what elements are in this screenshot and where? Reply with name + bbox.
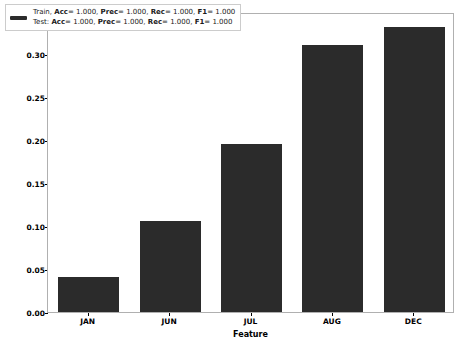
y-tick-label: 0.15 [17,179,45,190]
x-tick-label: DEC [383,316,443,328]
x-tick-mark [413,313,414,316]
x-tick-mark [169,313,170,316]
bar-series [48,14,453,312]
legend-entries: Train, Acc= 1.000, Prec= 1.000, Rec= 1.0… [33,8,235,27]
x-tick-label: AUG [302,316,362,328]
legend-entry-train: Train, Acc= 1.000, Prec= 1.000, Rec= 1.0… [33,8,235,17]
y-tick-label: 0.30 [17,50,45,61]
legend-metric-name: Prec [101,8,118,16]
bar [221,144,282,312]
y-axis-ticks: 0.000.050.100.150.200.250.300.35 [14,0,45,351]
x-tick-label: JUL [221,316,281,328]
legend-metric-name: Acc [51,18,65,26]
y-tick-label: 0.00 [17,308,45,319]
y-tick-label: 0.25 [17,93,45,104]
x-axis-label: Feature [47,330,454,339]
x-tick-label: JAN [58,316,118,328]
bar [384,27,445,312]
legend: Train, Acc= 1.000, Prec= 1.000, Rec= 1.0… [5,4,241,31]
legend-metric-name: Acc [54,8,68,16]
x-tick-mark [332,313,333,316]
bar [302,45,363,312]
plot-area [47,13,454,313]
y-tick-label: 0.05 [17,265,45,276]
legend-metric-name: Rec [148,18,162,26]
bar [140,221,201,312]
bar-chart-figure: Relative Importance 0.000.050.100.150.20… [0,0,461,351]
bar [58,277,119,312]
y-tick-label: 0.10 [17,222,45,233]
x-tick-mark [88,313,89,316]
legend-metric-name: Prec [98,18,115,26]
x-tick-label: JUN [139,316,199,328]
x-axis-ticks: JANJUNJULAUGDEC [47,316,454,330]
legend-metric-name: F1 [198,8,208,16]
legend-swatch-icon [10,16,27,20]
legend-entry-test: Test: Acc= 1.000, Prec= 1.000, Rec= 1.00… [33,18,235,27]
legend-metric-name: F1 [195,18,205,26]
legend-metric-name: Rec [151,8,165,16]
x-tick-mark [251,313,252,316]
y-tick-label: 0.20 [17,136,45,147]
